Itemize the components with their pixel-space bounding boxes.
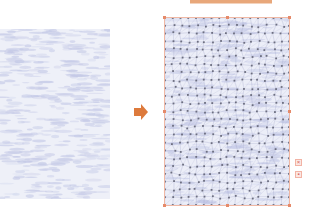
- texture-stroke: [255, 198, 269, 201]
- mesh-vertex: [174, 24, 176, 26]
- edge-handle-right[interactable]: [288, 110, 291, 113]
- texture-stroke: [29, 76, 41, 77]
- edge-handle-left[interactable]: [163, 110, 166, 113]
- mesh-vertex: [165, 157, 166, 159]
- texture-stroke: [36, 133, 43, 135]
- mesh-edge: [204, 167, 212, 175]
- mesh-edge: [165, 64, 172, 72]
- mesh-vertex: [272, 32, 274, 34]
- mesh-vertex: [268, 41, 270, 43]
- texture-stroke: [215, 179, 226, 181]
- mesh-vertex: [228, 102, 230, 104]
- mesh-vertex: [220, 94, 222, 96]
- mesh-vertex: [188, 32, 190, 34]
- mesh-vertex: [259, 73, 261, 75]
- texture-stroke: [35, 146, 47, 148]
- texture-stroke: [84, 187, 94, 190]
- mesh-edge: [243, 26, 252, 27]
- texture-stroke: [9, 148, 25, 151]
- mesh-vertex: [165, 103, 166, 105]
- texture-stroke: [211, 187, 221, 189]
- mesh-vertex: [288, 157, 289, 159]
- mesh-vertex: [179, 63, 181, 65]
- mesh-vertex: [203, 165, 205, 167]
- mesh-vertex: [219, 70, 221, 72]
- mesh-vertex: [248, 48, 250, 50]
- texture-stroke: [91, 138, 110, 140]
- texture-stroke: [11, 44, 25, 46]
- texture-stroke: [53, 37, 65, 39]
- mesh-vertex: [227, 88, 229, 90]
- texture-stroke: [16, 73, 32, 74]
- mesh-edge: [196, 65, 199, 72]
- mesh-edge: [244, 104, 253, 105]
- mesh-vertex: [165, 48, 166, 50]
- mesh-edge: [180, 165, 183, 175]
- mesh-vertex: [243, 103, 245, 105]
- mesh-vertex: [266, 24, 268, 26]
- edge-handle-top[interactable]: [226, 16, 229, 19]
- mesh-vertex: [180, 182, 182, 184]
- texture-stroke: [35, 155, 52, 157]
- mesh-edge: [233, 188, 243, 189]
- mesh-vertex: [219, 181, 221, 183]
- delete-mesh-button[interactable]: ×: [295, 159, 302, 166]
- mesh-vertex: [283, 73, 285, 75]
- texture-stroke: [19, 66, 31, 69]
- mesh-grid-button[interactable]: ▪: [295, 171, 302, 178]
- mesh-preview[interactable]: [164, 17, 290, 206]
- texture-stroke: [27, 129, 33, 131]
- mesh-vertex: [165, 33, 166, 35]
- texture-stroke: [49, 49, 55, 52]
- texture-stroke: [41, 94, 49, 95]
- mesh-vertex: [196, 166, 198, 168]
- mesh-vertex: [165, 173, 166, 175]
- mesh-vertex: [196, 56, 198, 58]
- mesh-vertex: [172, 204, 174, 205]
- mesh-edge: [245, 191, 250, 199]
- mesh-vertex: [172, 165, 174, 167]
- corner-handle-bottom-left[interactable]: [163, 204, 166, 207]
- texture-stroke: [70, 40, 76, 43]
- corner-handle-top-left[interactable]: [163, 16, 166, 19]
- mesh-vertex: [227, 150, 229, 152]
- mesh-edge: [251, 158, 257, 167]
- texture-stroke: [15, 61, 32, 63]
- mesh-vertex: [227, 133, 229, 135]
- mesh-vertex: [235, 47, 237, 49]
- mesh-vertex: [234, 80, 236, 82]
- corner-handle-bottom-right[interactable]: [288, 204, 291, 207]
- mesh-edge: [266, 18, 267, 25]
- mesh-edge: [245, 72, 252, 73]
- mesh-vertex: [186, 79, 188, 81]
- corner-handle-top-right[interactable]: [288, 16, 291, 19]
- texture-stroke: [15, 115, 24, 116]
- mesh-vertex: [257, 125, 259, 127]
- mesh-vertex: [272, 80, 274, 82]
- mesh-vertex: [170, 172, 172, 174]
- mesh-vertex: [211, 18, 213, 19]
- texture-stroke: [59, 60, 66, 62]
- mesh-vertex: [218, 190, 220, 192]
- mesh-vertex: [165, 40, 166, 42]
- mesh-vertex: [165, 118, 166, 120]
- mesh-vertex: [182, 57, 184, 59]
- mesh-vertex: [202, 125, 204, 127]
- mesh-edge: [174, 58, 183, 59]
- texture-stroke: [67, 187, 74, 190]
- mesh-vertex: [213, 118, 215, 120]
- mesh-vertex: [235, 195, 237, 197]
- mesh-vertex: [258, 132, 260, 134]
- texture-stroke: [175, 194, 181, 196]
- texture-stroke: [165, 75, 170, 78]
- texture-stroke: [89, 143, 105, 146]
- mesh-edge: [238, 65, 242, 72]
- mesh-edge: [219, 191, 220, 199]
- mesh-vertex: [218, 141, 220, 143]
- texture-stroke: [96, 84, 110, 87]
- mesh-vertex: [187, 142, 189, 144]
- mesh-vertex: [259, 40, 261, 42]
- edge-handle-bottom[interactable]: [226, 204, 229, 207]
- texture-stroke: [72, 102, 89, 104]
- texture-stroke: [225, 191, 233, 194]
